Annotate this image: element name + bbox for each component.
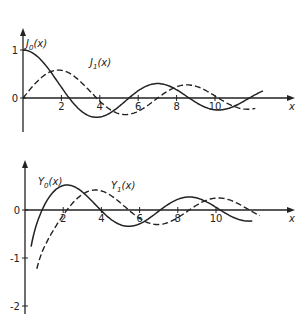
bessel-functions-figure: x24681010J0(x)J1(x) x2468100-1-2Y0(x)Y1(… [0,0,308,323]
y-tick-label: 0 [12,93,18,104]
x-axis-label: x [288,101,295,112]
y-tick-label: 0 [14,205,20,216]
x-axis-label: x [288,213,295,224]
y-axis-arrow-icon [22,160,28,168]
y-tick-label: -1 [10,253,20,264]
curve-label: Y1(x) [111,180,135,194]
curve-label: J1(x) [88,57,111,71]
chart-bessel-second-kind: x2468100-1-2Y0(x)Y1(x) [10,160,295,314]
curve-y1x [37,190,260,269]
x-tick-label: 8 [173,101,179,112]
y-tick-label: 1 [12,45,18,56]
x-tick-label: 4 [98,213,104,224]
y-tick-label: -2 [10,301,20,312]
x-tick-label: 10 [210,213,223,224]
x-tick-label: 2 [58,101,64,112]
y-axis-arrow-icon [20,28,26,36]
chart-bessel-first-kind: x24681010J0(x)J1(x) [12,28,295,132]
